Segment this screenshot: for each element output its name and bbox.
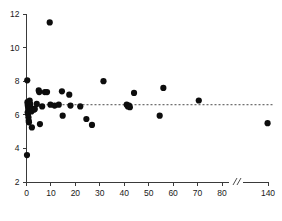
scatter-plot-figure: 2468101201020304050607080140 — [0, 0, 282, 221]
data-point — [39, 103, 45, 109]
x-axis-break-mark — [233, 178, 237, 185]
data-point — [131, 90, 137, 96]
plot-canvas: 2468101201020304050607080140 — [0, 0, 282, 221]
data-point — [83, 116, 89, 122]
data-point — [66, 92, 72, 98]
x-tick-label: 10 — [46, 188, 56, 198]
data-point — [24, 77, 30, 83]
data-point — [56, 102, 62, 108]
y-tick-label: 10 — [10, 43, 20, 53]
x-tick-label: 70 — [193, 188, 203, 198]
data-point — [47, 19, 53, 25]
x-tick-label: 20 — [71, 188, 81, 198]
data-point — [157, 113, 163, 119]
y-tick-label: 12 — [10, 9, 20, 19]
x-tick-label: 80 — [217, 188, 227, 198]
x-tick-label: 60 — [168, 188, 178, 198]
data-point — [36, 89, 42, 95]
data-point — [77, 103, 83, 109]
x-tick-label: 40 — [120, 188, 130, 198]
data-point — [44, 89, 50, 95]
x-tick-label: 0 — [24, 188, 29, 198]
data-point — [196, 97, 202, 103]
y-tick-label: 4 — [15, 143, 20, 153]
x-axis-break-mark — [237, 178, 241, 185]
data-point — [34, 101, 40, 107]
x-tick-label: 140 — [261, 188, 275, 198]
data-point — [264, 120, 270, 126]
data-point — [60, 113, 66, 119]
data-point — [29, 124, 35, 130]
y-tick-label: 6 — [15, 110, 20, 120]
data-point — [59, 88, 65, 94]
data-point — [89, 122, 95, 128]
y-tick-label: 2 — [15, 177, 20, 187]
data-point — [37, 121, 43, 127]
data-point — [127, 104, 133, 110]
x-tick-label: 30 — [95, 188, 105, 198]
x-tick-label: 50 — [144, 188, 154, 198]
y-tick-label: 8 — [15, 76, 20, 86]
data-point — [24, 152, 30, 158]
data-point — [67, 102, 73, 108]
data-point — [100, 78, 106, 84]
data-point — [160, 85, 166, 91]
